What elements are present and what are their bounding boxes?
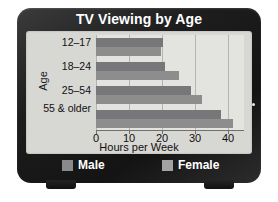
bar-female-25-54[interactable] <box>96 95 202 104</box>
television-foot-left <box>46 180 76 189</box>
legend-label-female: Female <box>178 158 219 172</box>
bar-male-55-older[interactable] <box>96 110 221 119</box>
legend-swatch-male-icon <box>62 160 73 171</box>
x-axis-title: Hours per Week <box>26 141 252 153</box>
screenshot-root: TV Viewing by Age Age 12–17 18–24 25–54 … <box>0 0 278 202</box>
gridline-40 <box>228 35 229 130</box>
television-foot-right <box>204 180 234 189</box>
bar-female-55-older[interactable] <box>96 119 233 128</box>
y-axis-label-12-17: 12–17 <box>33 37 91 48</box>
legend-item-female[interactable]: Female <box>162 158 219 172</box>
bar-female-18-24[interactable] <box>96 71 179 80</box>
bar-male-25-54[interactable] <box>96 86 191 95</box>
legend-item-male[interactable]: Male <box>62 158 105 172</box>
legend-swatch-female-icon <box>162 160 173 171</box>
bar-female-12-17[interactable] <box>96 47 161 56</box>
x-axis-line <box>96 130 244 131</box>
chart-legend: Male Female <box>17 158 261 176</box>
y-axis-label-25-54: 25–54 <box>33 85 91 96</box>
chart-screen: Age 12–17 18–24 25–54 55 & older 0 10 20 <box>26 31 252 154</box>
bar-male-12-17[interactable] <box>96 38 163 47</box>
bar-male-18-24[interactable] <box>96 62 165 71</box>
chart-title: TV Viewing by Age <box>17 11 261 27</box>
legend-label-male: Male <box>78 158 105 172</box>
y-axis-label-55-older: 55 & older <box>33 103 91 114</box>
power-indicator-light-icon <box>252 103 255 106</box>
y-axis-label-18-24: 18–24 <box>33 61 91 72</box>
